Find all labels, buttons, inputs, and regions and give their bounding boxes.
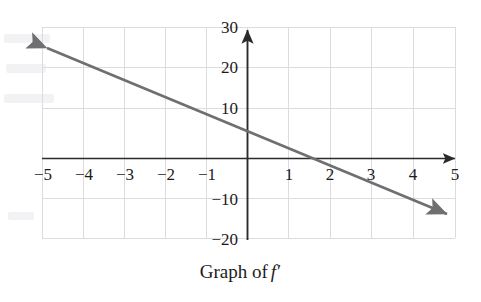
y-tick-label-neg-20: −20 (190, 231, 238, 248)
y-tick-label-neg-10: −10 (190, 191, 238, 208)
x-tick-label-2: 2 (310, 166, 350, 183)
figure-canvas: 30 20 10 −10 −20 −5 −4 −3 −2 −1 1 2 3 4 … (0, 0, 481, 302)
caption-prefix: Graph of (200, 261, 268, 282)
x-tick-label-3: 3 (351, 166, 391, 183)
x-tick-label-neg-4: −4 (64, 166, 104, 183)
x-tick-label-neg-3: −3 (105, 166, 145, 183)
x-tick-label-4: 4 (393, 166, 433, 183)
figure-caption: Graph off′ (0, 262, 481, 281)
caption-prime-symbol: ′ (276, 261, 281, 282)
x-tick-label-neg-1: −1 (187, 166, 227, 183)
graph-plot (0, 0, 481, 302)
caption-function-symbol: f (268, 261, 276, 282)
x-tick-label-neg-2: −2 (146, 166, 186, 183)
x-tick-label-neg-5: −5 (23, 166, 63, 183)
y-tick-label-10: 10 (196, 100, 238, 117)
x-tick-label-5: 5 (435, 166, 475, 183)
y-tick-label-30: 30 (196, 19, 238, 36)
y-tick-label-20: 20 (196, 59, 238, 76)
x-tick-label-1: 1 (269, 166, 309, 183)
